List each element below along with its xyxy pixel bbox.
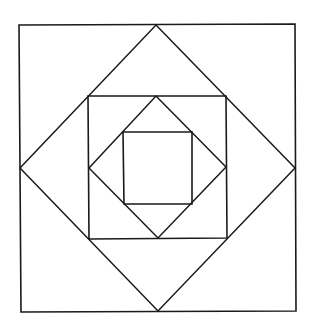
inner-square: [123, 132, 192, 204]
middle-square: [88, 96, 227, 239]
outer-square: [19, 24, 296, 312]
nested-squares-diagram: [0, 0, 310, 328]
middle-diamond: [89, 96, 226, 238]
outer-diamond: [20, 25, 295, 311]
